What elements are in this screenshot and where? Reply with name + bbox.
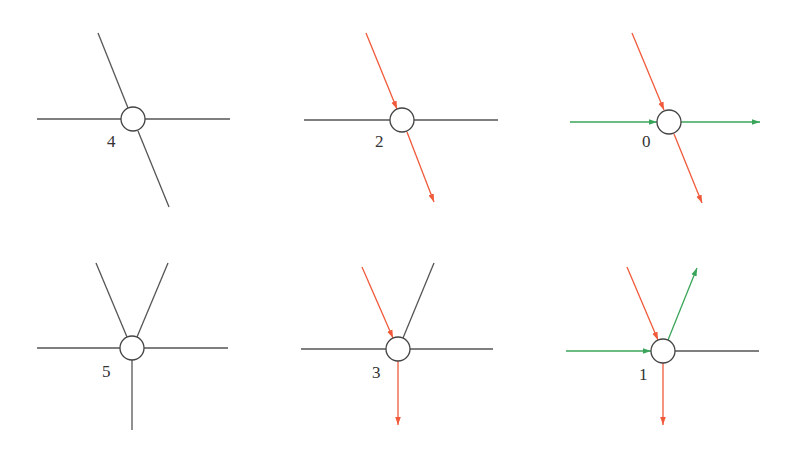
- edge: [96, 263, 127, 337]
- node-circle: [121, 107, 145, 131]
- node-circle: [120, 336, 144, 360]
- node-circle: [390, 108, 414, 132]
- node-group-1: 1: [639, 339, 675, 384]
- edges-layer: [37, 33, 760, 430]
- red-flow-edge: [627, 267, 658, 340]
- node-group-3: 3: [372, 337, 410, 382]
- edge: [138, 131, 169, 207]
- node-group-0: 0: [642, 110, 681, 151]
- node-circle: [651, 339, 675, 363]
- edge: [98, 33, 128, 108]
- node-group-2: 2: [375, 108, 414, 151]
- node-label: 2: [375, 132, 384, 151]
- edge: [137, 263, 168, 337]
- node-group-4: 4: [107, 107, 145, 151]
- red-flow-edge: [366, 33, 397, 109]
- flow-diagram: 420531: [0, 0, 800, 460]
- node-group-5: 5: [102, 336, 144, 381]
- red-flow-edge: [407, 132, 434, 202]
- nodes-layer: 420531: [102, 107, 681, 384]
- red-flow-edge: [362, 267, 393, 338]
- node-circle: [386, 337, 410, 361]
- node-label: 1: [639, 365, 648, 384]
- red-flow-edge: [674, 134, 702, 203]
- node-label: 5: [102, 362, 111, 381]
- edge: [403, 263, 434, 338]
- green-flow-edge: [668, 268, 697, 340]
- node-label: 0: [642, 132, 651, 151]
- node-circle: [657, 110, 681, 134]
- node-label: 4: [107, 132, 116, 151]
- node-label: 3: [372, 363, 381, 382]
- red-flow-edge: [632, 33, 664, 110]
